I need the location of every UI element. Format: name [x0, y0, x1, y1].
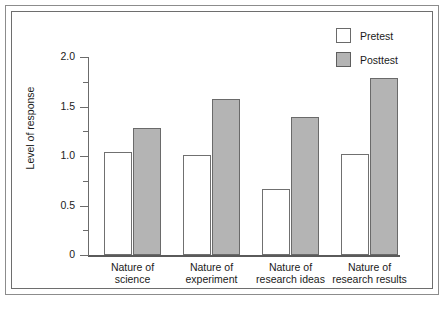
y-tick-major — [80, 206, 89, 207]
y-tick-label: 0 — [40, 249, 75, 260]
y-tick-label: 0.5 — [40, 200, 75, 211]
y-tick-minor — [83, 181, 89, 182]
bar-pretest — [183, 155, 211, 255]
y-tick-major — [80, 255, 89, 256]
legend-swatch-pretest-icon — [336, 28, 351, 43]
legend-swatch-posttest-icon — [336, 52, 351, 67]
y-tick-major — [80, 57, 89, 58]
y-tick-label-wrap: 1.0 — [40, 150, 75, 162]
bar-pretest — [262, 189, 290, 255]
category-label: Nature ofresearch results — [322, 261, 418, 285]
legend-label-pretest: Pretest — [360, 30, 393, 42]
y-tick-label: 2.0 — [40, 51, 75, 62]
y-axis-title: Level of response — [24, 73, 36, 183]
bar-chart-figure: 00.51.01.52.0 Level of response Nature o… — [0, 0, 447, 312]
category-label-line: research results — [322, 273, 418, 285]
y-tick-minor — [83, 82, 89, 83]
legend-label-posttest: Posttest — [360, 54, 398, 66]
y-tick-label-wrap: 2.0 — [40, 51, 75, 63]
y-tick-label: 1.0 — [40, 150, 75, 161]
plot-area: 00.51.01.52.0 Level of response Nature o… — [0, 0, 447, 312]
bar-posttest — [370, 78, 398, 255]
y-tick-label: 1.5 — [40, 101, 75, 112]
legend-item-posttest: Posttest — [336, 50, 398, 69]
y-tick-minor — [83, 131, 89, 132]
legend-item-pretest: Pretest — [336, 26, 398, 45]
y-tick-label-wrap: 0.5 — [40, 200, 75, 212]
y-tick-minor — [83, 230, 89, 231]
bar-pretest — [104, 152, 132, 255]
bar-posttest — [133, 128, 161, 255]
category-label-line: Nature of — [322, 261, 418, 273]
y-tick-label-wrap: 1.5 — [40, 101, 75, 113]
y-tick-major — [80, 156, 89, 157]
y-tick-label-wrap: 0 — [40, 249, 75, 261]
bar-pretest — [341, 154, 369, 255]
y-tick-major — [80, 107, 89, 108]
bar-posttest — [212, 99, 240, 255]
bar-posttest — [291, 117, 319, 255]
chart-legend: Pretest Posttest — [336, 26, 398, 74]
x-axis-baseline — [88, 255, 400, 257]
